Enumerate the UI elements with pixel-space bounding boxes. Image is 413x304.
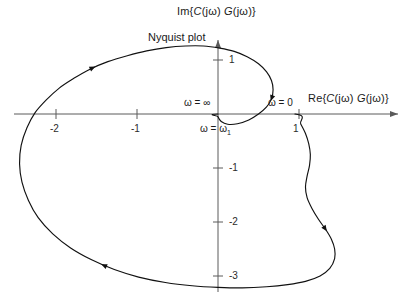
annotation-omega-one-text: ω = ω: [200, 123, 227, 134]
nyquist-plot-canvas: [0, 0, 413, 304]
axis-ticks-group: [56, 60, 299, 276]
annotation-omega-one-subscript: 1: [227, 129, 231, 136]
y-tick-label: -3: [229, 271, 238, 281]
nyquist-plot-figure: Im{C(jω) G(jω)} Re{C(jω) G(jω)} Nyquist …: [0, 0, 413, 304]
re-label-arg2: (jω): [366, 92, 385, 104]
re-label-post: }: [385, 92, 389, 104]
im-label-arg2: (jω): [233, 5, 252, 17]
annotation-omega-infinity: ω = ∞: [184, 98, 210, 108]
im-label-arg1: (jω): [202, 5, 221, 17]
re-label-arg1: (jω): [335, 92, 354, 104]
im-label-post: }: [252, 5, 256, 17]
imaginary-axis-title: Im{C(jω) G(jω)}: [177, 6, 256, 17]
y-tick-label: 1: [229, 55, 235, 65]
x-tick-label: 1: [293, 124, 299, 134]
im-label-g: G: [224, 5, 233, 17]
re-label-pre: Re{: [308, 92, 326, 104]
annotation-omega-zero: ω = 0: [268, 98, 293, 108]
direction-arrowhead: [321, 225, 327, 231]
real-axis-arrowhead: [390, 111, 398, 117]
real-axis-title: Re{C(jω) G(jω)}: [308, 93, 389, 104]
y-tick-label: -2: [229, 217, 238, 227]
x-tick-label: -1: [131, 124, 140, 134]
imaginary-axis-arrowhead: [215, 40, 221, 48]
plot-title: Nyquist plot: [148, 32, 205, 43]
axes-group: [14, 40, 398, 292]
nyquist-locus-curve: [20, 46, 336, 288]
re-label-g: G: [357, 92, 366, 104]
annotation-omega-one: ω = ω1: [200, 124, 231, 136]
im-label-pre: Im{: [177, 5, 194, 17]
im-label-c: C: [194, 5, 202, 17]
x-tick-label: -2: [50, 124, 59, 134]
y-tick-label: -1: [229, 163, 238, 173]
re-label-c: C: [326, 92, 334, 104]
nyquist-locus-group: [20, 46, 336, 288]
